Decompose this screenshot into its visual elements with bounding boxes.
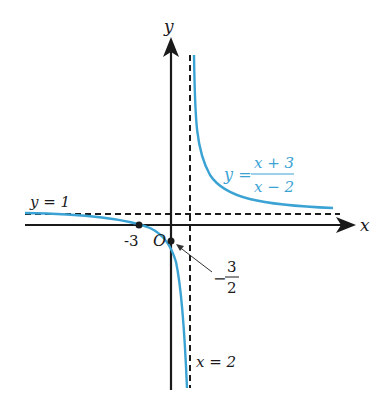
svg-text:3: 3 bbox=[227, 258, 237, 276]
svg-text:y =: y = bbox=[223, 165, 252, 184]
svg-text:−: − bbox=[213, 269, 226, 288]
y-intercept-point bbox=[168, 238, 175, 245]
y-intercept-label: − 3 2 bbox=[213, 258, 239, 297]
horizontal-asymptote-label: y = 1 bbox=[29, 193, 70, 211]
x-intercept-point bbox=[136, 222, 143, 229]
function-label: y = x + 3 x − 2 bbox=[223, 154, 294, 196]
hyperbola-graph: y x O y = 1 x = 2 -3 − 3 2 y = x + 3 x −… bbox=[0, 0, 380, 405]
x-axis-label: x bbox=[360, 215, 370, 235]
svg-text:x − 2: x − 2 bbox=[254, 178, 294, 196]
leader-line bbox=[178, 246, 212, 272]
x-intercept-label: -3 bbox=[124, 232, 139, 250]
svg-text:x + 3: x + 3 bbox=[254, 154, 294, 172]
vertical-asymptote-label: x = 2 bbox=[196, 353, 236, 371]
svg-text:2: 2 bbox=[227, 279, 237, 297]
y-axis-label: y bbox=[163, 16, 174, 36]
origin-label: O bbox=[153, 231, 166, 250]
